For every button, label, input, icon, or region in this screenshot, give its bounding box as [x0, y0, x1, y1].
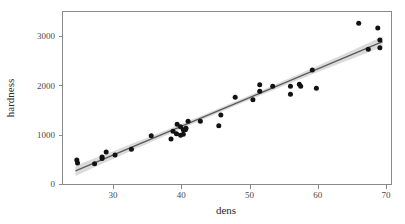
- data-point: [218, 112, 223, 117]
- data-point: [100, 154, 105, 159]
- data-point: [184, 126, 189, 131]
- data-point: [186, 119, 191, 124]
- data-point: [181, 132, 186, 137]
- data-point: [104, 150, 109, 155]
- data-point: [233, 95, 238, 100]
- x-tick-label: 60: [313, 190, 323, 200]
- data-point: [366, 47, 371, 52]
- y-tick-label: 3000: [37, 31, 56, 41]
- data-points-group: [74, 21, 382, 166]
- data-point: [129, 147, 134, 152]
- data-point: [257, 89, 262, 94]
- data-point: [375, 26, 380, 31]
- x-tick-label: 50: [245, 190, 255, 200]
- data-point: [92, 161, 97, 166]
- x-axis-label: dens: [216, 204, 236, 216]
- chart-figure: 3040506070 0100020003000 dens hardness: [0, 0, 405, 224]
- data-point: [288, 84, 293, 89]
- data-point: [314, 86, 319, 91]
- data-point: [250, 97, 255, 102]
- data-point: [377, 37, 382, 42]
- data-point: [356, 21, 361, 26]
- y-axis-ticks: 0100020003000: [37, 31, 63, 189]
- data-point: [75, 160, 80, 165]
- y-tick-label: 1000: [37, 130, 56, 140]
- data-point: [113, 153, 118, 158]
- data-point: [198, 119, 203, 124]
- regression-line: [75, 42, 382, 171]
- data-point: [169, 136, 174, 141]
- data-point: [288, 92, 293, 97]
- data-point: [298, 84, 303, 89]
- data-point: [216, 123, 221, 128]
- y-tick-label: 2000: [37, 81, 56, 91]
- y-axis-label: hardness: [4, 79, 16, 118]
- data-point: [310, 68, 315, 73]
- regression-line-group: [75, 42, 382, 171]
- data-point: [149, 133, 154, 138]
- x-tick-label: 30: [109, 190, 119, 200]
- scatter-plot-canvas: 3040506070 0100020003000 dens hardness: [0, 0, 405, 224]
- data-point: [270, 84, 275, 89]
- y-tick-label: 0: [51, 179, 56, 189]
- data-point: [377, 45, 382, 50]
- data-point: [257, 82, 262, 87]
- x-tick-label: 70: [382, 190, 392, 200]
- x-axis-ticks: 3040506070: [109, 185, 392, 201]
- x-tick-label: 40: [177, 190, 187, 200]
